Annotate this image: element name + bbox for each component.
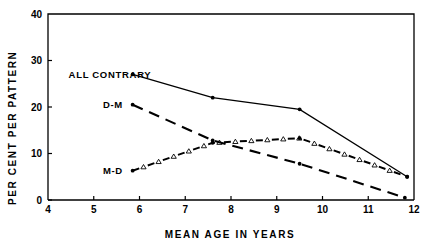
series-marker-triangle <box>327 146 332 150</box>
x-tick-label: 7 <box>182 204 188 215</box>
series-label: D-M <box>103 99 123 110</box>
series-marker-triangle <box>233 139 238 143</box>
series-marker-triangle <box>372 163 377 167</box>
series-marker-triangle <box>265 137 270 141</box>
series-d-m: D-M <box>103 99 407 200</box>
series-marker-triangle <box>249 138 254 142</box>
y-tick-label: 20 <box>31 102 43 113</box>
data-point <box>403 196 407 200</box>
series-marker-triangle <box>281 137 286 141</box>
data-point <box>405 175 409 179</box>
data-point <box>211 96 215 100</box>
data-point <box>298 107 302 111</box>
series-label: ALL CONTRARY <box>69 69 152 80</box>
series-m-d: M-D <box>103 136 409 179</box>
series-line <box>133 138 408 177</box>
series-marker-triangle <box>156 159 161 163</box>
series-label: M-D <box>103 165 123 176</box>
y-tick-label: 10 <box>31 148 43 159</box>
chart-figure: 456789101112010203040ALL CONTRARYD-MM-D … <box>0 0 430 247</box>
x-tick-label: 9 <box>274 204 280 215</box>
x-tick-label: 5 <box>91 204 97 215</box>
series-all-contrary: ALL CONTRARY <box>69 69 409 179</box>
series-marker-triangle <box>171 154 176 158</box>
series-marker-triangle <box>387 168 392 172</box>
data-point <box>298 136 302 140</box>
y-tick-label: 30 <box>31 55 43 66</box>
x-tick-label: 10 <box>317 204 329 215</box>
series-marker-triangle <box>312 141 317 145</box>
series-marker-triangle <box>186 149 191 153</box>
line-chart: 456789101112010203040ALL CONTRARYD-MM-D <box>0 0 430 247</box>
series-marker-triangle <box>357 157 362 161</box>
data-point <box>131 169 135 173</box>
data-point <box>298 162 302 166</box>
x-tick-label: 11 <box>363 204 374 215</box>
data-point <box>131 103 135 107</box>
x-tick-label: 6 <box>137 204 143 215</box>
data-point <box>211 141 215 145</box>
x-tick-label: 4 <box>45 204 51 215</box>
series-marker-triangle <box>201 143 206 147</box>
y-tick-label: 0 <box>36 195 42 206</box>
y-tick-label: 40 <box>31 9 43 20</box>
x-tick-label: 8 <box>228 204 234 215</box>
series-marker-triangle <box>141 165 146 169</box>
x-tick-label: 12 <box>408 204 420 215</box>
series-line <box>133 105 405 198</box>
series-marker-triangle <box>342 152 347 156</box>
